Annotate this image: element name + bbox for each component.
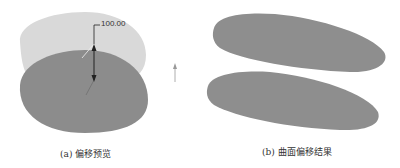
figure-canvas [0,0,400,168]
caption-b: (b) 曲面偏移结果 [262,145,332,158]
dimension-label[interactable]: 100.00 [101,19,125,28]
offset-preview-panel [20,12,148,133]
lower-surface [207,72,379,131]
caption-a: (a) 偏移预览 [60,147,111,160]
offset-result-panel [207,13,386,130]
upper-surface [213,13,386,72]
arrow-up-icon [173,63,177,82]
